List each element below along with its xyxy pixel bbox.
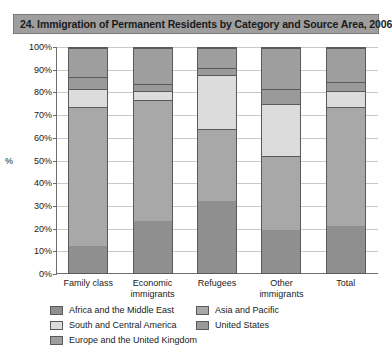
bar-segment[interactable] — [262, 156, 300, 230]
bar-segment[interactable] — [327, 91, 365, 107]
y-tick-label: 40% — [18, 178, 52, 188]
bar-group — [120, 47, 184, 274]
stacked-bar[interactable] — [261, 47, 301, 274]
legend-row: Europe and the United Kingdom — [50, 335, 350, 347]
bar-segment[interactable] — [327, 82, 365, 91]
legend-swatch-icon — [196, 306, 209, 315]
x-tick-label: Other immigrants — [249, 278, 313, 300]
y-tick-label: 30% — [18, 201, 52, 211]
y-tick-label: 90% — [18, 65, 52, 75]
bar-segment[interactable] — [69, 246, 107, 273]
bar-segment[interactable] — [262, 89, 300, 105]
x-tick-label: Total — [314, 278, 378, 289]
bar-segment[interactable] — [134, 100, 172, 222]
legend-swatch-icon — [50, 336, 63, 345]
legend-item[interactable]: South and Central America — [50, 320, 177, 330]
x-tick-label: Refugees — [185, 278, 249, 289]
bar-segment[interactable] — [69, 107, 107, 247]
y-axis-tick-labels: 100%90%80%70%60%50%40%30%20%10%0% — [16, 47, 52, 274]
legend-item-label: United States — [215, 320, 269, 330]
stacked-bar[interactable] — [68, 47, 108, 274]
figure-title-bar: 24. Immigration of Permanent Residents b… — [13, 14, 379, 34]
bar-group — [314, 47, 378, 274]
legend-row: Africa and the Middle EastAsia and Pacif… — [50, 305, 350, 317]
bar-segment[interactable] — [198, 48, 236, 68]
bar-segment[interactable] — [327, 107, 365, 226]
bar-segment[interactable] — [262, 48, 300, 89]
x-tick-label: Family class — [56, 278, 120, 289]
x-axis-tick-labels: Family classEconomic immigrantsRefugeesO… — [56, 278, 378, 302]
legend: Africa and the Middle EastAsia and Pacif… — [50, 305, 350, 350]
bar-segment[interactable] — [69, 89, 107, 107]
y-tick-label: 10% — [18, 246, 52, 256]
bar-segment[interactable] — [262, 104, 300, 156]
legend-swatch-icon — [196, 321, 209, 330]
bar-group — [56, 47, 120, 274]
legend-item[interactable]: Europe and the United Kingdom — [50, 335, 197, 345]
bar-segment[interactable] — [134, 221, 172, 273]
bar-segment[interactable] — [198, 129, 236, 201]
y-tick-label: 70% — [18, 110, 52, 120]
bar-segment[interactable] — [327, 48, 365, 82]
bar-group — [249, 47, 313, 274]
bar-segment[interactable] — [327, 226, 365, 273]
bar-group — [185, 47, 249, 274]
y-tick-label: 60% — [18, 133, 52, 143]
legend-item[interactable]: Asia and Pacific — [196, 305, 279, 315]
y-tick-label: 80% — [18, 87, 52, 97]
legend-swatch-icon — [50, 321, 63, 330]
bars-layer — [56, 47, 378, 274]
legend-item[interactable]: United States — [196, 320, 269, 330]
bar-segment[interactable] — [198, 68, 236, 75]
figure-container: 24. Immigration of Permanent Residents b… — [0, 0, 392, 357]
page-title: 24. Immigration of Permanent Residents b… — [20, 18, 392, 30]
bar-segment[interactable] — [69, 77, 107, 88]
legend-item-label: Africa and the Middle East — [69, 305, 174, 315]
legend-row: South and Central AmericaUnited States — [50, 320, 350, 332]
stacked-bar[interactable] — [326, 47, 366, 274]
y-tick-label: 0% — [18, 269, 52, 279]
bar-segment[interactable] — [198, 75, 236, 129]
legend-item-label: South and Central America — [69, 320, 177, 330]
bar-segment[interactable] — [262, 230, 300, 273]
stacked-bar[interactable] — [197, 47, 237, 274]
y-tick-label: 100% — [18, 42, 52, 52]
bar-segment[interactable] — [69, 48, 107, 77]
bar-segment[interactable] — [134, 91, 172, 100]
y-tick-label: 20% — [18, 224, 52, 234]
legend-item-label: Asia and Pacific — [215, 305, 279, 315]
x-tick-label: Economic immigrants — [120, 278, 184, 300]
y-tick-mark — [53, 274, 57, 275]
legend-item[interactable]: Africa and the Middle East — [50, 305, 174, 315]
legend-item-label: Europe and the United Kingdom — [69, 335, 197, 345]
bar-segment[interactable] — [134, 84, 172, 91]
stacked-bar[interactable] — [133, 47, 173, 274]
y-axis-title: % — [2, 47, 16, 274]
bar-segment[interactable] — [198, 201, 236, 273]
bar-segment[interactable] — [134, 48, 172, 84]
y-tick-label: 50% — [18, 156, 52, 166]
legend-swatch-icon — [50, 306, 63, 315]
